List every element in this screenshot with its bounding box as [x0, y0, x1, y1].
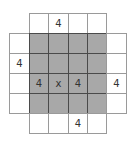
target-cell: x [48, 73, 69, 94]
grid-cell [87, 13, 107, 34]
grid-cell [48, 113, 69, 134]
grid-cell [9, 73, 30, 94]
number-cell: 4 [48, 13, 69, 34]
grid-cell [68, 53, 88, 74]
grid-cell [87, 33, 107, 54]
grid-cell [106, 93, 127, 114]
grid-cell [29, 113, 49, 134]
grid-cell [87, 93, 107, 114]
grid-cell [48, 53, 69, 74]
number-cell: 4 [68, 113, 88, 134]
number-cell: 4 [68, 73, 88, 94]
number-cell: 4 [106, 73, 127, 94]
grid-cell [29, 93, 49, 114]
grid-cell [87, 53, 107, 74]
grid-cell [9, 33, 30, 54]
grid-cell [68, 13, 88, 34]
number-cell: 4 [29, 73, 49, 94]
grid-cell [68, 33, 88, 54]
grid-cell [87, 73, 107, 94]
grid-cell [29, 53, 49, 74]
grid-cell [29, 13, 49, 34]
grid-cell [87, 113, 107, 134]
grid-cell [48, 33, 69, 54]
grid-cell [106, 53, 127, 74]
grid-cell [48, 93, 69, 114]
grid-cell [9, 93, 30, 114]
number-cell: 4 [9, 53, 30, 74]
number-grid-diagram: 444x444 [0, 0, 134, 149]
grid-cell [68, 93, 88, 114]
grid-cell [29, 33, 49, 54]
grid-cell [106, 33, 127, 54]
